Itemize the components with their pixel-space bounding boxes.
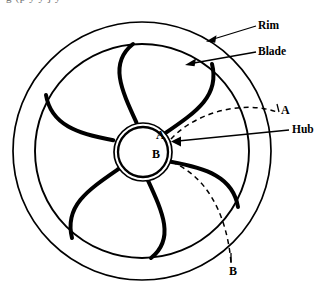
marker-label-b-outer: B [229, 265, 237, 277]
marker-a-outer-tick [277, 104, 279, 112]
blade-6 [119, 44, 136, 122]
blade-leader-line [191, 52, 256, 64]
callout-label-rim: Rim [258, 20, 279, 32]
dashed-path-group [171, 107, 277, 262]
blade-arrowhead [185, 59, 196, 67]
dashed-path-b [172, 162, 231, 262]
callout-label-hub: Hub [292, 124, 314, 136]
blade-1 [166, 64, 214, 133]
blade-4 [70, 169, 118, 238]
impeller-diagram: g (p y y j y [0, 0, 328, 292]
dashed-path-a [171, 107, 277, 139]
blade-5 [46, 95, 113, 140]
hub-leader-line [178, 130, 289, 141]
blade-3 [148, 180, 165, 258]
callout-label-blade: Blade [258, 46, 286, 58]
marker-label-a-hub: A [156, 129, 165, 141]
impeller-drawing [0, 0, 328, 292]
rim-leader-line [212, 26, 256, 40]
marker-tick-group [231, 104, 279, 263]
marker-label-b-hub: B [152, 148, 160, 160]
blade-2 [171, 162, 238, 207]
marker-label-a-outer: A [281, 104, 290, 116]
